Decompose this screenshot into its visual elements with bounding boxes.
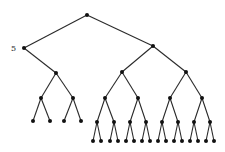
tree-node (91, 139, 95, 143)
tree-node (48, 119, 52, 123)
tree-node (140, 139, 144, 143)
tree-node (79, 119, 83, 123)
tree-node (188, 139, 192, 143)
tree-node (99, 139, 103, 143)
tree-node (103, 96, 107, 100)
tree-node (180, 139, 184, 143)
tree-edges (24, 15, 214, 141)
tree-edge (122, 72, 138, 98)
tree-edge (142, 122, 146, 141)
tree-edge (73, 98, 81, 121)
tree-node (136, 96, 140, 100)
tree-node (164, 139, 168, 143)
tree-svg: 5 (0, 0, 225, 152)
tree-edge (162, 122, 166, 141)
tree-edge (122, 46, 153, 72)
tree-edge (158, 122, 162, 141)
tree-node (144, 120, 148, 124)
tree-edge (170, 72, 186, 98)
tree-node (172, 139, 176, 143)
tree-node (176, 120, 180, 124)
tree-edge (24, 48, 56, 73)
tree-edge (33, 98, 41, 121)
tree-node (85, 13, 89, 17)
tree-node (95, 120, 99, 124)
tree-edge (206, 122, 210, 141)
tree-edge (162, 98, 170, 122)
tree-edge (97, 98, 105, 122)
tree-edge (194, 122, 198, 141)
tree-edge (126, 122, 130, 141)
tree-edge (64, 98, 73, 121)
tree-edge (130, 98, 138, 122)
tree-edge (105, 98, 114, 122)
tree-edge (202, 98, 210, 122)
tree-edge (130, 122, 134, 141)
tree-node (31, 119, 35, 123)
tree-node (168, 96, 172, 100)
tree-node (22, 46, 26, 50)
tree-edge (87, 15, 153, 46)
tree-node (204, 139, 208, 143)
tree-edge (56, 73, 73, 98)
tree-node (196, 139, 200, 143)
tree-node (39, 96, 43, 100)
tree-node (124, 139, 128, 143)
tree-node (212, 139, 216, 143)
tree-edge (114, 122, 118, 141)
tree-node (156, 139, 160, 143)
tree-labels: 5 (11, 44, 16, 53)
tree-node (151, 44, 155, 48)
tree-node (148, 139, 152, 143)
tree-edge (178, 122, 182, 141)
tree-node (108, 139, 112, 143)
tree-diagram: 5 (0, 0, 225, 152)
tree-node (160, 120, 164, 124)
tree-node (192, 120, 196, 124)
tree-node (200, 96, 204, 100)
tree-node (208, 120, 212, 124)
tree-edge (186, 72, 202, 98)
tree-edge (146, 122, 150, 141)
tree-node (132, 139, 136, 143)
tree-edge (194, 98, 202, 122)
tree-edge (97, 122, 101, 141)
tree-edge (24, 15, 87, 48)
tree-edge (41, 73, 56, 98)
tree-node (120, 70, 124, 74)
tree-edge (174, 122, 178, 141)
tree-edge (170, 98, 178, 122)
tree-edge (153, 46, 186, 72)
tree-node (112, 120, 116, 124)
tree-edge (190, 122, 194, 141)
tree-edge (138, 98, 146, 122)
tree-node (71, 96, 75, 100)
tree-edge (105, 72, 122, 98)
tree-edge (110, 122, 114, 141)
tree-node (62, 119, 66, 123)
tree-nodes (22, 13, 216, 143)
tree-edge (41, 98, 50, 121)
tree-node (184, 70, 188, 74)
tree-node (116, 139, 120, 143)
tree-edge (210, 122, 214, 141)
tree-node (54, 71, 58, 75)
tree-edge (93, 122, 97, 141)
tree-node (128, 120, 132, 124)
node-label: 5 (11, 44, 16, 53)
